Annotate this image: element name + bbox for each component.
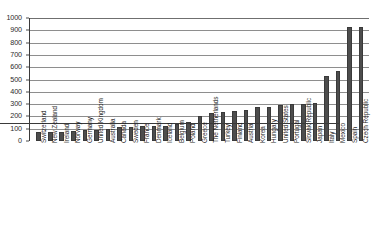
x-tick-label: Slovak Republic: [305, 98, 311, 143]
x-tick-label: Canada: [121, 121, 127, 143]
x-tick-label: Turkey: [225, 124, 231, 143]
x-tick-label: France: [144, 123, 150, 143]
y-tick-label: 500: [0, 76, 22, 83]
x-label-cell: The Netherlands: [205, 143, 217, 229]
x-label-cell: Hungary: [262, 143, 274, 229]
x-tick-label: Hungary: [271, 119, 277, 143]
x-label-cell: Italy: [320, 143, 332, 229]
x-label-cell: France: [136, 143, 148, 229]
x-label-cell: Sweden: [124, 143, 136, 229]
x-tick-label: The Netherlands: [213, 97, 219, 144]
x-label-cell: Austria: [239, 143, 251, 229]
x-tick-label: United Kingdom: [98, 98, 104, 143]
x-label-cell: Turkey: [216, 143, 228, 229]
bar: [347, 27, 352, 141]
x-label-cell: Mexico: [331, 143, 343, 229]
x-tick-label: New Zealand: [52, 106, 58, 143]
x-tick-label: Ireland: [63, 124, 69, 143]
x-tick-label: Italy: [328, 132, 334, 143]
x-label-cell: Slovak Republic: [297, 143, 309, 229]
y-axis: 01002003004005006007008009001000: [0, 12, 26, 146]
x-tick-label: Austria: [248, 123, 254, 143]
x-tick-label: Mexico: [340, 123, 346, 143]
x-label-cell: Greece: [193, 143, 205, 229]
x-tick-label: Switzerland: [40, 111, 46, 143]
x-label-cell: Korea: [251, 143, 263, 229]
x-label-cell: Poland: [182, 143, 194, 229]
x-tick-label: Norway: [75, 122, 81, 143]
x-label-cell: Spain: [343, 143, 355, 229]
x-label-cell: Denmark: [147, 143, 159, 229]
x-label-cell: New Zealand: [44, 143, 56, 229]
y-tick-label: 1000: [0, 14, 22, 21]
y-tick-label: 300: [0, 100, 22, 107]
y-tick-label: 100: [0, 125, 22, 132]
x-tick-label: Portugal: [294, 120, 300, 143]
x-label-cell: Ireland: [55, 143, 67, 229]
x-label-cell: Germany: [78, 143, 90, 229]
x-label-cell: Switzerland: [32, 143, 44, 229]
x-tick-label: Japan: [317, 126, 323, 143]
y-tick-label: 700: [0, 51, 22, 58]
x-tick-label: Sweden: [132, 120, 138, 143]
x-label-cell: Iceland: [159, 143, 171, 229]
x-label-cell: Norway: [67, 143, 79, 229]
x-axis-labels: SwitzerlandNew ZealandIrelandNorwayGerma…: [29, 143, 368, 229]
x-tick-label: Poland: [190, 123, 196, 143]
y-tick-label: 400: [0, 88, 22, 95]
bar-chart: 01002003004005006007008009001000 Switzer…: [0, 0, 372, 230]
x-label-cell: United States: [274, 143, 286, 229]
x-tick-label: Australia: [109, 119, 115, 143]
y-tick-label: 800: [0, 39, 22, 46]
x-tick-label: Czech Republic: [363, 99, 369, 143]
x-label-cell: Finland: [228, 143, 240, 229]
x-label-cell: Belgium: [170, 143, 182, 229]
x-tick-label: Germany: [86, 117, 92, 143]
x-label-cell: Australia: [101, 143, 113, 229]
y-tick-label: 600: [0, 64, 22, 71]
y-tick-label: 200: [0, 113, 22, 120]
x-tick-label: Belgium: [179, 120, 185, 143]
x-label-cell: United Kingdom: [90, 143, 102, 229]
x-tick-label: Iceland: [167, 123, 173, 143]
x-label-cell: Czech Republic: [354, 143, 366, 229]
x-tick-label: Spain: [351, 127, 357, 143]
x-tick-label: Korea: [259, 126, 265, 143]
x-tick-label: Greece: [202, 122, 208, 143]
y-tick-label: 900: [0, 27, 22, 34]
x-label-cell: Portugal: [285, 143, 297, 229]
y-tick-label: 0: [0, 137, 22, 144]
x-tick-label: Denmark: [156, 117, 162, 143]
x-tick-label: Finland: [236, 122, 242, 143]
x-tick-label: United States: [282, 105, 288, 143]
x-label-cell: Canada: [113, 143, 125, 229]
x-label-cell: Japan: [308, 143, 320, 229]
